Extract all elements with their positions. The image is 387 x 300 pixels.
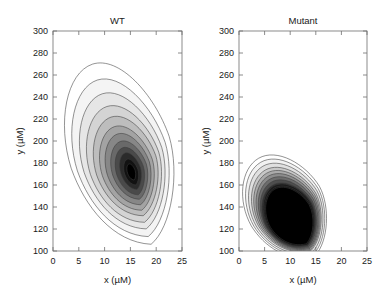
y-tick-label: 260 xyxy=(219,70,234,80)
y-axis-label: y (µM) xyxy=(200,127,211,154)
y-tick-label: 200 xyxy=(219,136,234,146)
figure-background xyxy=(0,0,387,300)
y-tick-label: 120 xyxy=(33,224,48,234)
x-tick-label: 5 xyxy=(76,256,81,266)
x-axis-label: x (µM) xyxy=(104,274,131,285)
y-tick-label: 300 xyxy=(33,26,48,36)
panel-title: WT xyxy=(110,15,125,26)
x-axis-label: x (µM) xyxy=(289,274,316,285)
y-tick-label: 300 xyxy=(219,26,234,36)
y-tick-label: 260 xyxy=(33,70,48,80)
x-tick-label: 15 xyxy=(311,256,321,266)
contour-figure: 0510152025100120140160180200220240260280… xyxy=(0,0,387,300)
x-tick-label: 15 xyxy=(125,256,135,266)
y-tick-label: 140 xyxy=(219,202,234,212)
y-tick-label: 100 xyxy=(33,246,48,256)
x-tick-label: 0 xyxy=(50,256,55,266)
y-tick-label: 240 xyxy=(219,92,234,102)
y-axis-label: y (µM) xyxy=(14,127,25,154)
x-tick-label: 5 xyxy=(262,256,267,266)
x-tick-label: 10 xyxy=(100,256,110,266)
x-tick-label: 20 xyxy=(151,256,161,266)
y-tick-label: 280 xyxy=(33,48,48,58)
y-tick-label: 180 xyxy=(219,158,234,168)
y-tick-label: 120 xyxy=(219,224,234,234)
y-tick-label: 160 xyxy=(33,180,48,190)
x-tick-label: 20 xyxy=(336,256,346,266)
x-tick-label: 10 xyxy=(285,256,295,266)
x-tick-label: 0 xyxy=(236,256,241,266)
y-tick-label: 220 xyxy=(33,114,48,124)
x-tick-label: 25 xyxy=(177,256,187,266)
y-tick-label: 280 xyxy=(219,48,234,58)
figure-canvas: 0510152025100120140160180200220240260280… xyxy=(0,0,387,300)
y-tick-label: 140 xyxy=(33,202,48,212)
y-tick-label: 100 xyxy=(219,246,234,256)
y-tick-label: 200 xyxy=(33,136,48,146)
y-tick-label: 240 xyxy=(33,92,48,102)
x-tick-label: 25 xyxy=(362,256,372,266)
y-tick-label: 220 xyxy=(219,114,234,124)
panel-title: Mutant xyxy=(288,15,317,26)
y-tick-label: 180 xyxy=(33,158,48,168)
y-tick-label: 160 xyxy=(219,180,234,190)
